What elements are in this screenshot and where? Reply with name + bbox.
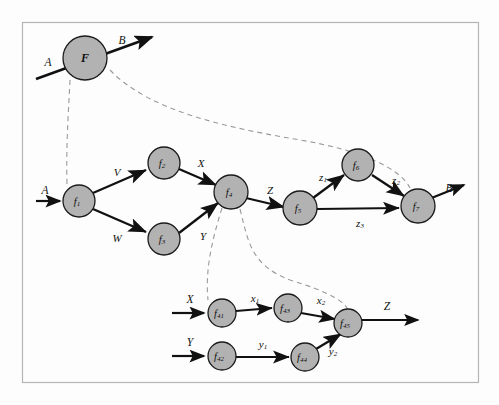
edge-label-z1: z1 <box>318 171 327 184</box>
bottom-input-label-X: X <box>185 293 194 305</box>
edge-f1-f3 <box>93 209 146 232</box>
edge-label-x2: x2 <box>316 294 326 307</box>
edge-label-y2: y2 <box>328 345 338 358</box>
edge-label-y1: y1 <box>258 338 267 351</box>
dashed-link-f4-to-f41 <box>207 208 222 300</box>
middle-input-label-A: A <box>40 184 49 196</box>
edge-label-z2: z2 <box>391 174 400 187</box>
bottom-output-label-Z: Z <box>384 300 391 312</box>
edge-label-X: X <box>197 157 206 169</box>
edge-f43-f45 <box>301 313 335 319</box>
edge-label-V: V <box>114 166 122 178</box>
function-decomposition-diagram: F A B A f1 f2 f3 f4 <box>0 0 499 405</box>
edge-f2-f4 <box>179 169 216 185</box>
edge-f5-f6 <box>313 175 344 198</box>
edge-f5-f7 <box>317 208 399 209</box>
top-input-label-A: A <box>43 56 52 68</box>
bottom-input-label-Y: Y <box>187 336 195 348</box>
edge-f41-f43 <box>236 308 272 311</box>
middle-output-label-B: B <box>445 182 452 194</box>
edge-f4-f5 <box>246 198 284 207</box>
middle-level-group: A f1 f2 f3 f4 f5 f6 f7 V W <box>36 147 464 255</box>
bottom-level-group: f41 f42 f43 f44 f45 x1 x2 y1 y2 X Y Z <box>172 292 418 371</box>
edge-label-z3: z3 <box>355 217 364 230</box>
edge-label-Z: Z <box>267 184 274 196</box>
edge-label-x1: x1 <box>250 292 259 305</box>
diagram-canvas: F A B A f1 f2 f3 f4 <box>0 0 499 405</box>
node-F-label: F <box>80 51 89 65</box>
edge-f3-f4 <box>179 203 218 233</box>
top-level-group: F A B <box>36 34 152 80</box>
edge-label-Y: Y <box>200 230 208 242</box>
top-output-label-B: B <box>118 34 125 46</box>
edge-label-W: W <box>112 232 122 244</box>
dashed-link-F-to-f1 <box>67 80 70 185</box>
